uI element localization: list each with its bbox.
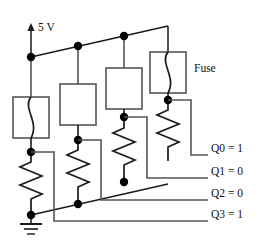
branch-3-ground-node: [120, 178, 128, 186]
branch-3-fuse-body: [106, 68, 142, 109]
output-label-q1: Q1 = 0: [211, 165, 243, 177]
fuse-label: Fuse: [194, 62, 216, 74]
supply-node-branch-1: [27, 53, 35, 61]
supply-voltage-label: 5 V: [38, 21, 55, 33]
circuit-diagram: 5 V: [0, 0, 267, 249]
output-label-q3: Q3 = 1: [211, 208, 243, 220]
supply-node-branch-2: [74, 42, 82, 50]
branch-2-fuse-body: [60, 84, 96, 125]
supply-node-branch-3: [120, 32, 128, 40]
branch-1-ground-node: [27, 211, 35, 219]
output-label-q0: Q0 = 1: [211, 142, 243, 154]
output-label-q2: Q2 = 0: [211, 187, 243, 199]
branch-2-ground-node: [74, 200, 82, 208]
